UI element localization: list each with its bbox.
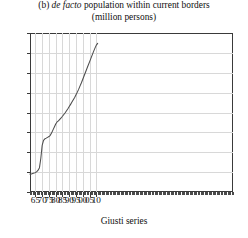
chart-title: (b) de facto population within current b… [0,0,248,23]
x-tick-label-10: 10 [83,196,109,205]
chart-title-line-1: (b) de facto population within current b… [0,0,248,12]
chart-title-line-2: (million persons) [0,12,248,24]
chart-title-italic: de facto [52,0,82,10]
chart-title-suffix: population within current borders [82,0,210,10]
chart-figure: (b) de facto population within current b… [0,0,248,238]
chart-title-prefix: (b) [38,0,51,10]
x-axis-title: Giusti series [0,216,248,226]
plot-area: 202224262830323436 65707580859095000510 [30,33,233,192]
x-tick-minor-2011 [233,192,234,195]
series-line-giusti [30,33,233,192]
